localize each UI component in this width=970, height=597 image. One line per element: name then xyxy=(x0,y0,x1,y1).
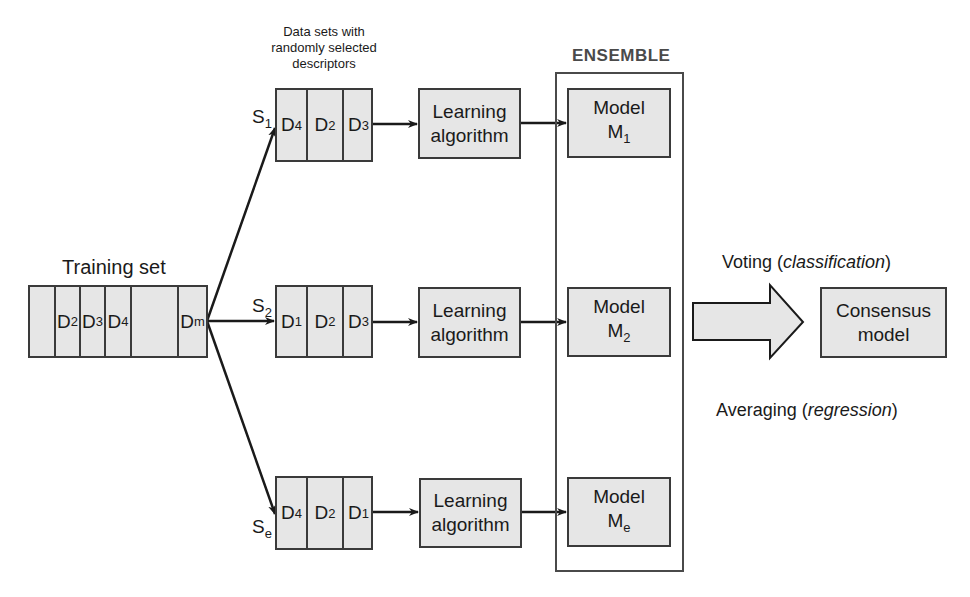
training-cell: D4 xyxy=(106,287,132,356)
training-cell xyxy=(30,287,56,356)
dataset-se: D4 D2 D1 xyxy=(275,476,373,550)
dataset-cell: D2 xyxy=(308,90,344,160)
arrow-to-s1 xyxy=(207,128,275,321)
training-set-table: D2 D3 D4 Dm xyxy=(28,285,208,358)
training-cell: Dm xyxy=(179,287,206,356)
consensus-model: Consensus model xyxy=(820,287,947,358)
training-cell: D3 xyxy=(81,287,106,356)
arrow-to-se xyxy=(207,321,275,514)
dataset-cell: D4 xyxy=(277,478,308,548)
training-cell xyxy=(132,287,179,356)
ensemble-frame xyxy=(555,72,684,572)
dataset-cell: D1 xyxy=(277,287,308,356)
training-set-title: Training set xyxy=(62,256,166,279)
voting-label: Voting (classification) xyxy=(722,252,891,273)
learning-algorithm-e: Learning algorithm xyxy=(419,478,522,548)
learning-algorithm-2: Learning algorithm xyxy=(418,287,521,358)
subset-label-s1: S1 xyxy=(252,106,272,131)
dataset-s1: D4 D2 D3 xyxy=(275,88,373,162)
training-cell: D2 xyxy=(56,287,81,356)
averaging-label: Averaging (regression) xyxy=(716,400,898,421)
dataset-cell: D1 xyxy=(344,478,373,548)
dataset-cell: D2 xyxy=(308,478,344,548)
subset-label-s2: S2 xyxy=(252,295,272,320)
ensemble-title: ENSEMBLE xyxy=(572,46,670,66)
combine-arrow-icon xyxy=(693,285,803,358)
dataset-cell: D4 xyxy=(277,90,308,160)
learning-algorithm-1: Learning algorithm xyxy=(418,88,521,159)
dataset-s2: D1 D2 D3 xyxy=(275,285,373,358)
subset-label-se: Se xyxy=(252,516,272,541)
dataset-cell: D3 xyxy=(344,90,373,160)
datasets-caption: Data sets with randomly selected descrip… xyxy=(234,24,414,72)
dataset-cell: D3 xyxy=(344,287,373,356)
dataset-cell: D2 xyxy=(308,287,344,356)
